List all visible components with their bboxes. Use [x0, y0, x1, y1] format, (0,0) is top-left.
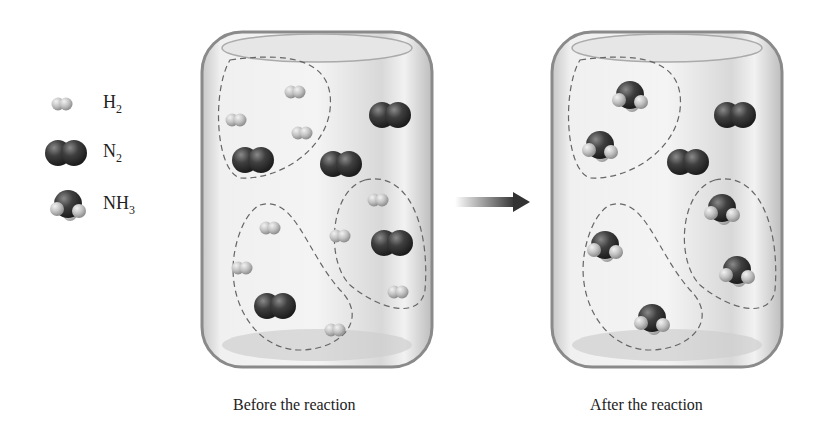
container-before	[202, 32, 432, 367]
caption-before: Before the reaction	[233, 396, 356, 414]
h2-molecule-icon	[52, 98, 73, 111]
legend-label-h2: H2	[103, 92, 122, 117]
legend-label-nh3: NH3	[103, 193, 135, 218]
n2-molecule-icon	[45, 140, 87, 166]
legend-label-n2: N2	[103, 141, 122, 166]
reaction-arrow-icon	[455, 192, 530, 212]
legend	[45, 98, 87, 222]
container-after	[552, 32, 782, 367]
nh3-molecule-icon	[50, 190, 86, 221]
caption-after: After the reaction	[590, 396, 703, 414]
